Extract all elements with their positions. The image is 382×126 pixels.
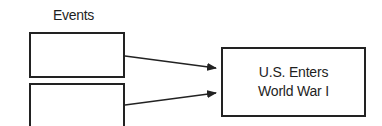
events-column-label: Events: [53, 7, 94, 23]
arrow-event-1-to-effect: [125, 56, 216, 68]
effect-line-1: U.S. Enters: [259, 63, 328, 82]
event-box-1[interactable]: [29, 32, 125, 78]
effect-box: U.S. Enters World War I: [221, 47, 366, 117]
arrow-event-2-to-effect: [125, 93, 216, 105]
event-box-2[interactable]: [29, 83, 125, 126]
effect-line-2: World War I: [258, 82, 329, 101]
